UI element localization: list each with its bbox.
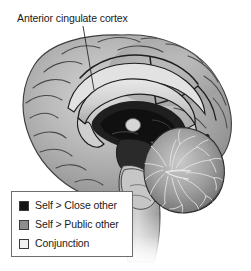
legend-item-self-public-other: Self > Public other: [19, 215, 132, 234]
swatch-self-public-other: [19, 220, 29, 230]
legend-label-conjunction: Conjunction: [35, 238, 89, 249]
annotation-label-anterior-cingulate-cortex: Anterior cingulate cortex: [17, 12, 128, 24]
legend-label-self-public-other: Self > Public other: [35, 219, 119, 230]
figure-container: Anterior cingulate cortex Self > Close o…: [0, 0, 251, 271]
legend-item-conjunction: Conjunction: [19, 234, 132, 253]
legend-box: Self > Close other Self > Public other C…: [11, 191, 133, 257]
swatch-self-close-other: [19, 201, 29, 211]
swatch-conjunction: [19, 239, 29, 249]
legend-label-self-close-other: Self > Close other: [35, 200, 117, 211]
legend-item-self-close-other: Self > Close other: [19, 196, 132, 215]
thalamus: [126, 119, 141, 132]
